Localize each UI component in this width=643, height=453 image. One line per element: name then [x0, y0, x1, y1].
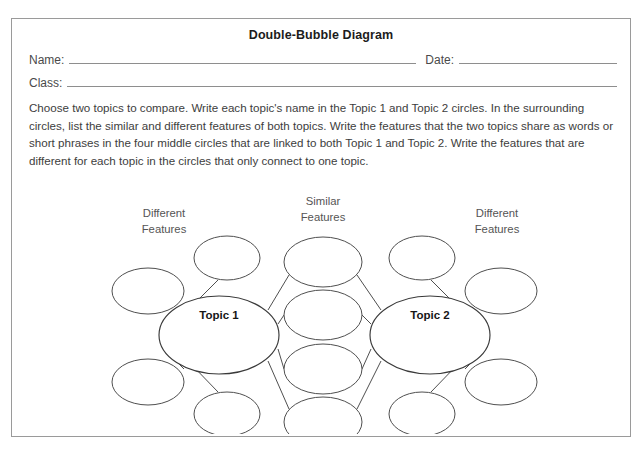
name-date-row: Name: Date:	[29, 52, 617, 67]
name-input[interactable]	[69, 52, 416, 64]
clipped-bottom-text	[36, 441, 336, 453]
topic-2-bubble[interactable]	[370, 296, 490, 374]
class-row: Class:	[29, 75, 617, 90]
similar-bubble-2[interactable]	[284, 290, 362, 340]
different-bubble-right-2[interactable]	[465, 268, 537, 314]
similar-bubble-4[interactable]	[284, 397, 362, 434]
connector-topic2-similar3	[362, 349, 371, 369]
connector-topic1-similar1	[268, 275, 289, 310]
different-bubble-left-4[interactable]	[194, 392, 260, 434]
different-bubble-left-1[interactable]	[194, 236, 260, 280]
topic-2-label: Topic 2	[410, 309, 449, 321]
connector-topic1-similar3	[278, 349, 284, 369]
class-input[interactable]	[67, 75, 617, 87]
worksheet-page: Double-Bubble Diagram Name: Date: Class:…	[11, 18, 631, 437]
date-input[interactable]	[459, 52, 617, 64]
different-bubble-right-4[interactable]	[389, 392, 455, 434]
class-label: Class:	[29, 76, 62, 90]
label-different-features-right-line1: Different	[476, 207, 519, 219]
label-similar-features-line2: Features	[301, 211, 346, 223]
double-bubble-diagram: Topic 1 Topic 2 Different Features Simil…	[12, 169, 632, 434]
connector-topic2-similar2	[362, 315, 371, 324]
label-different-features-left-line1: Different	[143, 207, 186, 219]
topic-1-bubble[interactable]	[159, 296, 279, 374]
different-bubble-left-3[interactable]	[112, 359, 184, 405]
connector-topic1-similar2	[278, 315, 284, 324]
date-label: Date:	[425, 53, 454, 67]
page-title: Double-Bubble Diagram	[12, 28, 630, 42]
instructions-text: Choose two topics to compare. Write each…	[29, 99, 615, 169]
label-different-features-left-line2: Features	[142, 223, 187, 235]
different-bubble-right-1[interactable]	[389, 236, 455, 280]
similar-bubble-3[interactable]	[284, 344, 362, 394]
label-similar-features-line1: Similar	[306, 195, 341, 207]
different-bubble-right-3[interactable]	[465, 359, 537, 405]
connector-topic2-similar1	[357, 275, 381, 310]
similar-bubble-1[interactable]	[284, 237, 362, 287]
label-different-features-right-line2: Features	[475, 223, 520, 235]
topic-1-label: Topic 1	[199, 309, 239, 321]
different-bubble-left-2[interactable]	[112, 268, 184, 314]
name-label: Name:	[29, 53, 64, 67]
clipped-top-text	[36, 0, 336, 6]
